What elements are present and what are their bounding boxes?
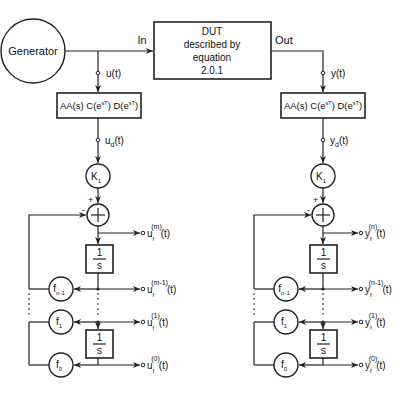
- right-chain: y(t) AA(s) C(esT) D(esT) yd(t) K1 + - yf…: [254, 68, 392, 377]
- right-sum-plus: +: [313, 195, 318, 205]
- y0-output-terminal: [359, 363, 363, 367]
- yd-tap-point: [321, 138, 325, 142]
- dut-line-2: described by: [184, 39, 241, 50]
- y1-output-terminal: [359, 320, 363, 324]
- right-aa-filter-label: AA(s) C(esT) D(esT): [284, 100, 362, 111]
- ud-tap-point: [96, 138, 100, 142]
- dut-line-4: 2.0.1: [201, 65, 224, 76]
- junction-dot: [96, 287, 99, 290]
- y0-output-label: yf(0)(t): [365, 355, 386, 374]
- yd-signal-label: yd(t): [330, 135, 348, 148]
- generator: Generator: [1, 19, 65, 83]
- um-output-terminal: [141, 231, 145, 235]
- yn-output-label: yf(n)(t): [365, 223, 386, 242]
- dut-line-3: equation: [193, 52, 231, 63]
- u1-output-label: uf(1)(t): [147, 312, 168, 331]
- um-output-label: uf(m)(t): [147, 223, 170, 242]
- ud-signal-label: ud(t): [105, 135, 124, 148]
- left-chain: u(t) AA(s) C(esT) D(esT) ud(t) K1 + - uf…: [29, 51, 176, 377]
- y-tap-point: [321, 71, 325, 75]
- right-gain-k1: [311, 164, 335, 188]
- left-gain-k1: [86, 164, 110, 188]
- dut-line-1: DUT: [202, 26, 223, 37]
- int1-den: s: [321, 260, 326, 271]
- int2-den: s: [97, 345, 102, 356]
- yn-output-terminal: [359, 231, 363, 235]
- dut-out-label: Out: [275, 34, 293, 46]
- int2-num: 1: [321, 332, 327, 343]
- generator-label: Generator: [8, 45, 58, 57]
- u1-output-terminal: [141, 320, 145, 324]
- int2-num: 1: [97, 332, 103, 343]
- yn1-output-label: yf(n-1)(t): [365, 279, 392, 298]
- left-sum-plus: +: [88, 195, 93, 205]
- int1-den: s: [97, 260, 102, 271]
- u-signal-label: u(t): [106, 68, 121, 79]
- junction-dot: [321, 287, 324, 290]
- u-tap-point: [96, 71, 100, 75]
- u0-output-terminal: [141, 363, 145, 367]
- output-signal-line: [271, 51, 323, 92]
- int2-den: s: [321, 345, 326, 356]
- right-sum-minus: -: [307, 205, 310, 215]
- y1-output-label: yf(1)(t): [365, 312, 386, 331]
- u0-output-label: uf(0)(t): [147, 355, 168, 374]
- um1-output-label: uf(m-1)(t): [147, 279, 176, 298]
- left-aa-filter-label: AA(s) C(esT) D(esT): [60, 100, 138, 111]
- block-diagram: Generator In DUT described by equation 2…: [0, 0, 409, 398]
- left-sum-minus: -: [82, 205, 85, 215]
- dut-in-label: In: [137, 34, 146, 46]
- right-f0-gain: [274, 353, 298, 377]
- left-f1-gain: [49, 310, 73, 334]
- um1-output-terminal: [141, 287, 145, 291]
- left-f0-gain: [49, 353, 73, 377]
- int1-num: 1: [97, 247, 103, 258]
- right-f1-gain: [274, 310, 298, 334]
- int1-num: 1: [321, 247, 327, 258]
- yn1-output-terminal: [359, 287, 363, 291]
- y-signal-label: y(t): [331, 68, 345, 79]
- dut-block: DUT described by equation 2.0.1: [154, 22, 271, 79]
